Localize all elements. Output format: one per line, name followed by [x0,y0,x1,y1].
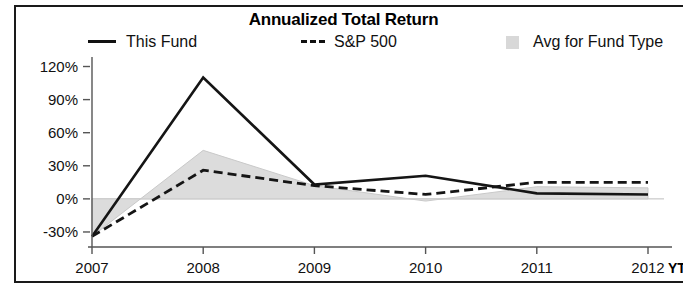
y-tick-label: 60% [48,124,78,141]
x-tick-label: 2011 [521,259,553,276]
series-line-this-fund [92,78,648,237]
axes-group [83,57,672,254]
y-tick-label: 90% [48,91,78,108]
x-axis-ytd-label: YTD [668,260,683,276]
x-tick-label: 2008 [187,259,220,276]
y-tick-label: -30% [43,223,78,240]
x-tick-label: 2009 [298,259,331,276]
y-tick-label: 120% [40,58,78,75]
y-axis-tick-labels: -30%0%30%60%90%120% [40,58,78,240]
x-tick-label: 2012 [631,259,664,276]
x-tick-label: 2007 [75,259,108,276]
plot-area: -30%0%30%60%90%120% 20072008200920102011… [16,7,683,283]
chart-svg: -30%0%30%60%90%120% 20072008200920102011… [16,7,683,283]
y-tick-label: 0% [56,190,78,207]
x-axis-tick-labels: 200720082009201020112012YTD [75,259,683,276]
chart-container: Annualized Total Return This Fund S&P 50… [14,5,683,283]
y-tick-label: 30% [48,157,78,174]
x-tick-label: 2010 [409,259,442,276]
